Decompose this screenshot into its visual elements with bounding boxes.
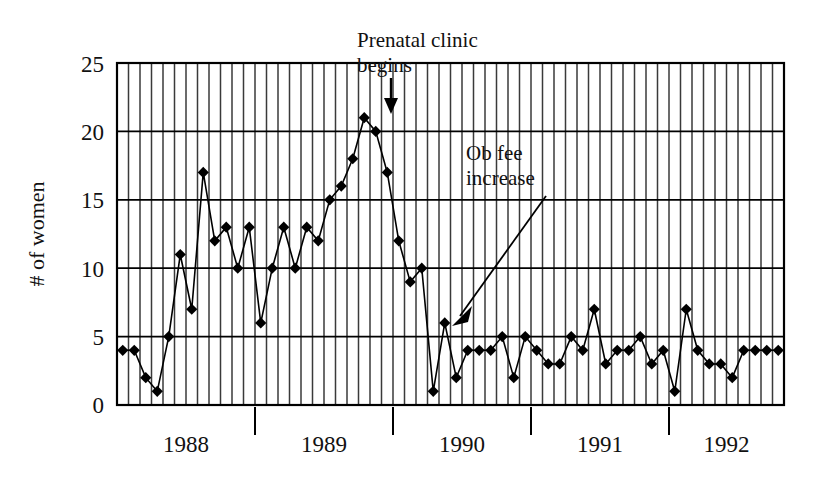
y-tick-label-0: 0 <box>93 393 105 418</box>
line-chart: 25 20 15 10 5 0 # of women 1988 1989 199… <box>0 0 818 482</box>
year-label-1989: 1989 <box>301 432 347 457</box>
year-label-1988: 1988 <box>163 432 209 457</box>
y-tick-label-25: 25 <box>81 52 104 77</box>
y-tick-label-10: 10 <box>81 257 104 282</box>
prenatal-clinic-label-line2: begins <box>357 53 412 77</box>
prenatal-clinic-label-line1: Prenatal clinic <box>357 28 478 52</box>
y-tick-label-15: 15 <box>81 188 104 213</box>
year-label-1992: 1992 <box>704 432 750 457</box>
year-label-1990: 1990 <box>439 432 485 457</box>
ob-fee-label-line2: increase <box>466 166 535 190</box>
y-tick-label-5: 5 <box>93 325 105 350</box>
ob-fee-label-line1: Ob fee <box>466 141 523 165</box>
y-axis-label: # of women <box>24 181 49 286</box>
y-tick-label-20: 20 <box>81 120 104 145</box>
chart-container: 25 20 15 10 5 0 # of women 1988 1989 199… <box>0 0 818 482</box>
year-label-1991: 1991 <box>577 432 623 457</box>
